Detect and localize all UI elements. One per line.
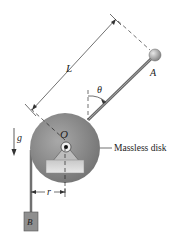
gravity-label: g <box>17 132 22 143</box>
ball-a <box>149 49 161 61</box>
gravity-arrow <box>12 128 17 156</box>
radius-label: r <box>47 186 51 197</box>
length-label: L <box>65 62 72 74</box>
pivot-label: O <box>60 128 68 140</box>
block-label: B <box>27 217 33 227</box>
pendulum-disk-diagram: L θ A O g r B Massless disk <box>0 0 184 240</box>
length-dimension <box>25 14 150 116</box>
disk-label: Massless disk <box>114 143 167 153</box>
angle-label: θ <box>97 84 102 95</box>
point-a-label: A <box>149 67 157 78</box>
